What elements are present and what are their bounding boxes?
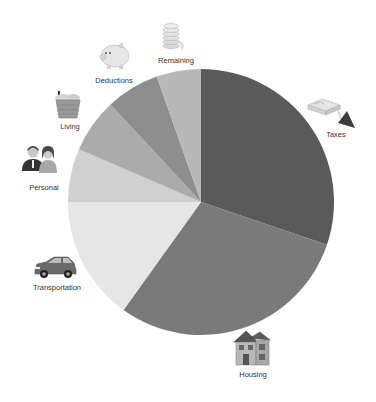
label-personal: Personal <box>29 183 59 192</box>
car-icon <box>35 257 76 278</box>
pie-chart: Remaining Deductions Living Personal <box>0 0 376 402</box>
label-remaining: Remaining <box>158 56 194 65</box>
label-taxes: Taxes <box>326 130 346 139</box>
label-transportation: Transportation <box>33 283 81 292</box>
label-housing: Housing <box>239 370 267 379</box>
pie-slices <box>68 69 334 335</box>
coin-stack-icon <box>163 24 183 51</box>
piggy-bank-icon <box>100 43 129 69</box>
people-icon <box>22 146 57 173</box>
money-stack-icon <box>308 99 341 119</box>
label-deductions: Deductions <box>95 76 133 85</box>
arrow-down-icon <box>338 111 355 128</box>
label-living: Living <box>60 122 80 131</box>
house-icon <box>234 331 270 365</box>
grocery-basket-icon <box>55 91 80 118</box>
